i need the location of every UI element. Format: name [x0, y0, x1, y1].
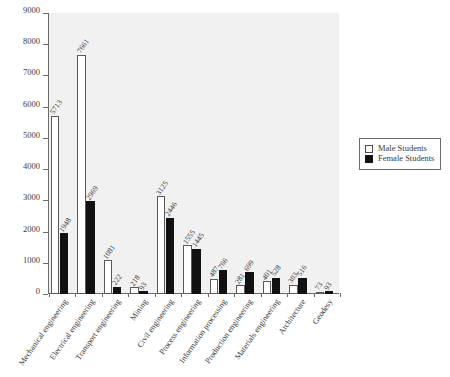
bar-chart: 0100020003000400050006000700080009000 57… — [0, 0, 450, 377]
y-axis-tick-label: 8000 — [23, 37, 40, 46]
y-axis-tick-label: 0 — [36, 287, 40, 296]
y-axis-tick-label: 5000 — [23, 131, 40, 140]
bar-male: 218 — [130, 287, 139, 294]
y-axis-tick-label: 7000 — [23, 68, 40, 77]
bar-female: 766 — [219, 270, 228, 294]
x-axis-tick-mark — [128, 293, 129, 297]
chart-legend: Male Students Female Students — [359, 138, 441, 170]
bar-male: 487 — [210, 279, 219, 294]
legend-swatch-female-icon — [365, 155, 373, 163]
y-axis-tick-label: 2000 — [23, 225, 40, 234]
x-axis-tick-mark — [340, 293, 341, 297]
bar-female: 1948 — [60, 233, 69, 294]
bar-male: 303 — [289, 285, 298, 294]
y-axis-tick-label: 6000 — [23, 100, 40, 109]
bar-female: 222 — [113, 287, 122, 294]
x-axis-tick-mark — [208, 293, 209, 297]
x-axis-tick-mark — [75, 293, 76, 297]
x-axis-tick-mark — [261, 293, 262, 297]
x-axis-tick-mark — [181, 293, 182, 297]
bar-female: 1445 — [192, 249, 201, 294]
bar-male: 73 — [316, 292, 325, 294]
bar-female: 516 — [298, 278, 307, 294]
y-axis-tick-label: 3000 — [23, 193, 40, 202]
x-axis-tick-mark — [234, 293, 235, 297]
legend-label-female: Female Students — [378, 154, 434, 163]
bar-female: 528 — [272, 278, 281, 294]
bar-male: 1555 — [183, 245, 192, 294]
bar-male: 5713 — [51, 116, 60, 294]
bar-female: 699 — [245, 272, 254, 294]
y-axis-tick-mark — [43, 294, 48, 295]
x-axis-tick-mark — [314, 293, 315, 297]
bar-male: 401 — [263, 281, 272, 294]
bar-female: 93 — [325, 291, 334, 294]
y-axis-tick-label: 1000 — [23, 256, 40, 265]
legend-item-female[interactable]: Female Students — [365, 154, 434, 163]
bar-male: 1081 — [104, 260, 113, 294]
y-axis-tick-label: 9000 — [23, 6, 40, 15]
bar-female: 2446 — [166, 218, 175, 294]
y-axis-tick-label: 4000 — [23, 162, 40, 171]
x-axis-tick-mark — [49, 293, 50, 297]
legend-swatch-male-icon — [365, 145, 373, 153]
x-axis-tick-mark — [155, 293, 156, 297]
bar-female: 2969 — [86, 201, 95, 294]
legend-item-male[interactable]: Male Students — [365, 144, 434, 153]
bar-female: 93 — [139, 291, 148, 294]
x-axis-tick-mark — [102, 293, 103, 297]
bar-male: 7661 — [77, 55, 86, 294]
x-axis-tick-mark — [287, 293, 288, 297]
legend-label-male: Male Students — [378, 144, 427, 153]
bar-male: 281 — [236, 285, 245, 294]
y-axis: 0100020003000400050006000700080009000 — [0, 13, 48, 294]
